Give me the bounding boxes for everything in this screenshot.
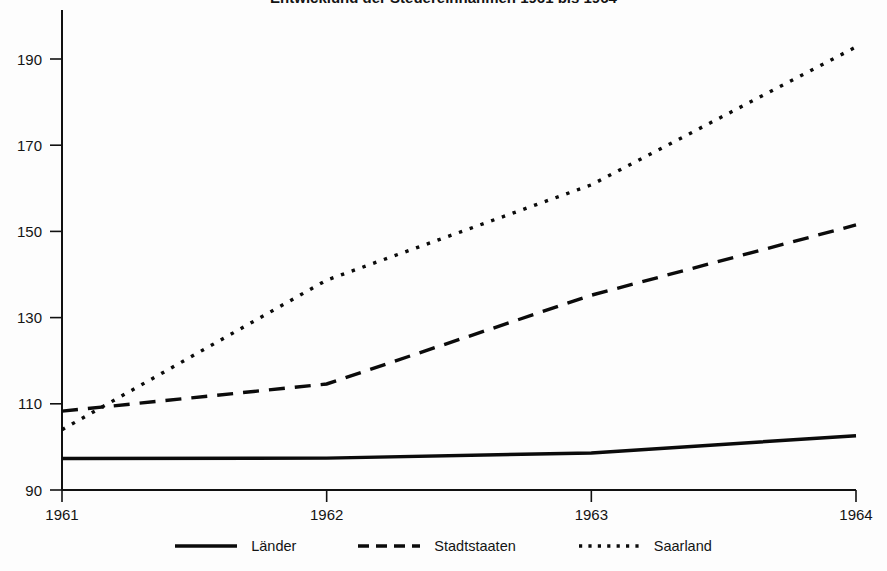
- series-line-stadtstaaten: [62, 225, 856, 411]
- y-tick-label: 150: [17, 223, 42, 240]
- legend-item-stadtstaaten[interactable]: Stadtstaaten: [358, 538, 515, 554]
- x-axis-tick-labels: 1961196219631964: [45, 506, 872, 523]
- legend-label-laender: Länder: [251, 538, 296, 554]
- x-tick-label: 1963: [575, 506, 608, 523]
- y-tick-label: 130: [17, 309, 42, 326]
- y-tick-label: 110: [18, 395, 42, 412]
- x-tick-label: 1964: [839, 506, 872, 523]
- plot-area: 90110130150170190 1961196219631964: [0, 0, 887, 571]
- series-line-saarland: [62, 47, 856, 430]
- y-tick-label: 90: [25, 482, 42, 499]
- y-axis-tick-labels: 90110130150170190: [17, 51, 42, 499]
- legend-label-stadtstaaten: Stadtstaaten: [434, 538, 515, 554]
- legend-label-saarland: Saarland: [654, 538, 712, 554]
- x-axis-ticks: [62, 490, 856, 502]
- x-tick-label: 1962: [310, 506, 343, 523]
- y-tick-label: 170: [17, 137, 42, 154]
- series-line-lnder: [62, 436, 856, 459]
- dotted-line-swatch: [578, 539, 640, 553]
- y-tick-label: 190: [17, 51, 42, 68]
- y-axis-ticks: [50, 59, 62, 490]
- chart-legend: Länder Stadtstaaten Saarland: [0, 538, 887, 554]
- legend-item-laender[interactable]: Länder: [175, 538, 296, 554]
- line-chart: Entwicklung der Steuereinnahmen 1961 bis…: [0, 0, 887, 571]
- legend-item-saarland[interactable]: Saarland: [578, 538, 712, 554]
- solid-line-swatch: [175, 539, 237, 553]
- dashed-line-swatch: [358, 539, 420, 553]
- x-tick-label: 1961: [45, 506, 78, 523]
- series-lines: [62, 47, 856, 459]
